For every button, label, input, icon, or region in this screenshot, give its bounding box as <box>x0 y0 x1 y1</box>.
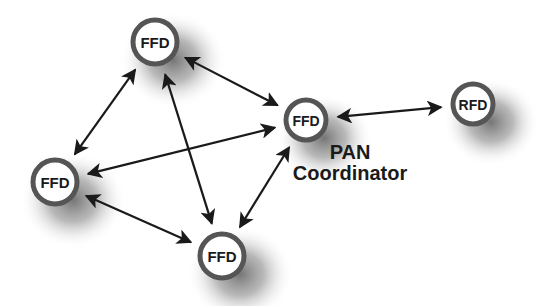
node-bottom: FFD <box>200 234 244 278</box>
node-label: RFD <box>459 97 488 113</box>
node-shadows <box>20 12 538 306</box>
network-topology-diagram: FFDFFDRFDFFDFFD <box>0 0 538 306</box>
node-label: FFD <box>40 174 69 191</box>
node-top: FFD <box>133 20 177 64</box>
node-label: FFD <box>140 34 169 51</box>
node-label: FFD <box>292 113 319 129</box>
node-pan: FFD <box>286 100 326 140</box>
node-label: FFD <box>207 248 236 265</box>
pan-coordinator-label: PAN Coordinator <box>290 142 410 184</box>
node-left: FFD <box>33 160 77 204</box>
edge-pan-left <box>88 128 275 174</box>
caption-line-1: PAN <box>290 142 410 163</box>
edge-top-left <box>75 70 135 155</box>
node-rfd: RFD <box>453 84 493 124</box>
edge-pan-bottom <box>240 147 289 227</box>
caption-line-2: Coordinator <box>290 163 410 184</box>
